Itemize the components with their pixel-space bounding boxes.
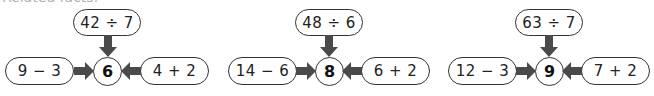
arrow-down-icon <box>320 35 338 57</box>
right-expression-box: 7 + 2 <box>581 57 650 85</box>
top-expression-box: 48 ÷ 6 <box>295 9 363 36</box>
result-circle: 9 <box>535 57 564 86</box>
result-circle: 8 <box>315 57 344 86</box>
arrow-down-icon <box>540 35 558 57</box>
arrow-right-icon <box>296 62 316 80</box>
left-expression-box: 14 − 6 <box>228 57 297 85</box>
right-expression-box: 6 + 2 <box>361 57 430 85</box>
arrow-left-icon <box>342 62 362 80</box>
fact-group-3: 63 ÷ 7 12 − 3 9 7 + 2 <box>0 0 220 96</box>
arrow-right-icon <box>516 62 536 80</box>
top-expression-box: 63 ÷ 7 <box>515 9 583 36</box>
left-expression-box: 12 − 3 <box>448 57 517 85</box>
arrow-left-icon <box>562 62 582 80</box>
